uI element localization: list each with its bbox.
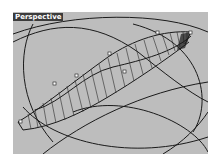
- wireframe-model: [13, 12, 208, 154]
- viewport-title[interactable]: Perspective: [13, 13, 63, 21]
- perspective-viewport[interactable]: Perspective: [13, 12, 208, 154]
